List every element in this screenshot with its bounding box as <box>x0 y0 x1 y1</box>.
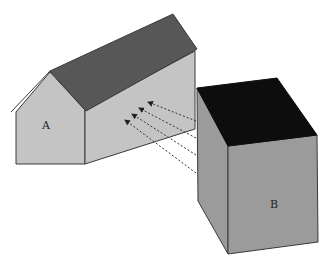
block-b: B <box>197 78 318 254</box>
building-a: A <box>11 14 197 164</box>
label-a: A <box>41 119 51 132</box>
diagram-canvas: A B <box>0 0 330 271</box>
label-b: B <box>270 198 278 211</box>
block-b-front-face <box>228 135 318 254</box>
